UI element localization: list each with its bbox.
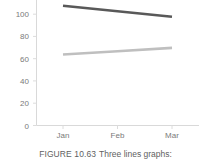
series-line-dark [63, 6, 172, 17]
ytick-label-100: 100 [16, 10, 30, 19]
xtick-label-feb: Feb [111, 131, 125, 140]
ytick-label-20: 20 [20, 99, 29, 108]
figure-caption-label: FIGURE 10.63 [39, 149, 96, 159]
figure-container: 100 80 60 40 20 0 Jan Feb Mar FIGURE 10.… [0, 0, 211, 163]
figure-caption-text: Three lines graphs: [99, 149, 172, 159]
ytick-label-40: 40 [20, 77, 29, 86]
x-axis-ticks [63, 126, 172, 130]
xtick-label-mar: Mar [165, 131, 179, 140]
ytick-label-0: 0 [25, 122, 30, 131]
ytick-label-80: 80 [20, 32, 29, 41]
xtick-label-jan: Jan [57, 131, 70, 140]
figure-caption: FIGURE 10.63Three lines graphs: [0, 149, 211, 160]
line-chart: 100 80 60 40 20 0 Jan Feb Mar [0, 0, 211, 140]
ytick-label-60: 60 [20, 55, 29, 64]
y-axis-ticks [33, 14, 37, 125]
chart-canvas: 100 80 60 40 20 0 Jan Feb Mar [0, 0, 211, 140]
series-line-light [63, 48, 172, 55]
